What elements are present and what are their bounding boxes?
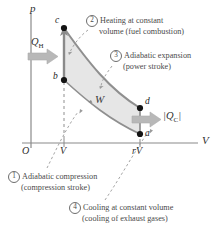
heat-in-symbol: Q — [31, 36, 39, 47]
point-marker-c — [61, 25, 67, 31]
x-axis-label: V — [202, 134, 209, 146]
callout-heating-constant-volume: 2Heating at constant volume (fuel combus… — [86, 15, 184, 37]
callout-number-4: 4 — [69, 202, 81, 214]
callout-adiabatic-expansion: 3Adiabatic expansion (power stroke) — [110, 50, 191, 72]
leader-arrow-callout-4 — [150, 129, 153, 133]
point-marker-d — [137, 105, 143, 111]
origin-label: O — [22, 145, 29, 156]
otto-cycle-diagram: p V O V rV c b d a QH |QC| W 2Heating at… — [0, 0, 224, 238]
heat-in-label: QH — [31, 36, 44, 51]
callout-3-line2: (power stroke) — [123, 62, 191, 72]
x-tick-label-rV: rV — [132, 145, 142, 156]
callout-number-1: 1 — [8, 171, 20, 183]
point-label-c: c — [55, 15, 59, 26]
x-tick-label-V: V — [60, 145, 66, 156]
callout-1-line1: Adiabatic compression — [22, 172, 97, 181]
point-label-b: b — [53, 71, 58, 82]
callout-cooling-constant-volume: 4Cooling at constant volume (cooling of … — [69, 202, 173, 224]
callout-number-3: 3 — [110, 50, 122, 62]
heat-in-subscript: H — [39, 42, 44, 50]
point-marker-b — [61, 77, 67, 83]
work-label: W — [95, 93, 104, 105]
callout-adiabatic-compression: 1Adiabatic compression (compression stro… — [8, 171, 97, 193]
callout-2-line2: volume (fuel combustion) — [99, 27, 184, 37]
heat-out-symbol: |Q — [163, 110, 173, 121]
callout-4-line1: Cooling at constant volume — [83, 203, 173, 212]
point-label-d: d — [145, 96, 150, 107]
heat-out-label: |QC| — [163, 110, 181, 125]
heat-out-bar: | — [178, 110, 181, 121]
callout-number-2: 2 — [86, 15, 98, 27]
leader-arrow-callout-1 — [79, 109, 82, 113]
point-marker-a — [137, 131, 143, 137]
callout-4-line2: (cooling of exhaust gases) — [82, 214, 173, 224]
y-axis-label: p — [30, 2, 36, 14]
point-label-a: a — [145, 128, 150, 139]
callout-1-line2: (compression stroke) — [21, 183, 97, 193]
leader-line-callout-1 — [47, 112, 78, 168]
heat-in-arrow — [28, 49, 58, 64]
leader-line-callout-4 — [105, 132, 148, 200]
callout-3-line1: Adiabatic expansion — [124, 51, 191, 60]
callout-2-line1: Heating at constant — [100, 16, 163, 25]
